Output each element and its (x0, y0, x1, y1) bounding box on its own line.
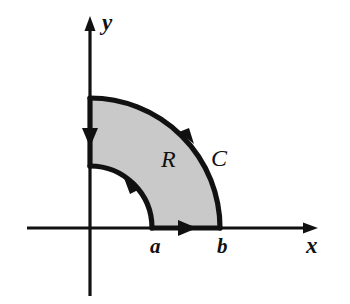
figure-canvas: y x R C a b (0, 0, 350, 304)
y-axis-arrowhead (85, 16, 96, 31)
region-label-R: R (160, 146, 176, 172)
diagram-svg: y x R C a b (0, 0, 350, 304)
inner-radius-label-a: a (150, 234, 161, 258)
x-axis-label: x (305, 233, 318, 258)
y-axis-label: y (99, 10, 113, 35)
outer-radius-label-b: b (217, 234, 228, 258)
curve-label-C: C (211, 145, 228, 171)
x-axis-arrowhead (303, 223, 318, 234)
